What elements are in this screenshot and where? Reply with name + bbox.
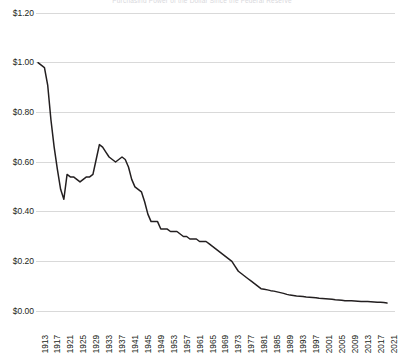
- data-series-group: [38, 63, 387, 303]
- y-axis-tick-label: $0.40: [0, 207, 34, 216]
- x-axis-tick-label: 1993: [300, 335, 308, 353]
- x-axis-tick-label: 2001: [326, 335, 334, 353]
- x-axis-tick-label: 1981: [261, 335, 269, 353]
- y-axis-tick-label: $0.20: [0, 257, 34, 266]
- x-axis-tick-label: 2005: [339, 335, 347, 353]
- x-axis-tick-label: 1961: [197, 335, 205, 353]
- y-axis-tick-label: $1.20: [0, 9, 34, 18]
- y-axis-tick-label: $0.00: [0, 307, 34, 316]
- x-axis-tick-label: 1921: [67, 335, 75, 353]
- x-axis-tick-label: 1989: [287, 335, 295, 353]
- x-axis-tick-label: 1969: [222, 335, 230, 353]
- x-axis-tick-label: 1953: [171, 335, 179, 353]
- gridlines: [36, 13, 395, 311]
- x-axis-tick-label: 1997: [313, 335, 321, 353]
- x-axis-tick-label: 1917: [54, 335, 62, 353]
- chart-canvas: [36, 0, 395, 337]
- x-axis-tick-label: 1985: [274, 335, 282, 353]
- x-axis-tick-label: 1965: [210, 335, 218, 353]
- y-axis-tick-label: $0.60: [0, 158, 34, 167]
- x-axis-tick-label: 2017: [378, 335, 386, 353]
- x-axis-tick-label: 1913: [42, 335, 50, 353]
- x-axis-tick-label: 1937: [119, 335, 127, 353]
- x-axis-tick-label: 1933: [106, 335, 114, 353]
- y-axis-tick-label: $0.80: [0, 108, 34, 117]
- x-axis: 1913191719211925192919331937194119451949…: [36, 313, 395, 337]
- x-axis-tick-label: 1977: [248, 335, 256, 353]
- x-axis-tick-label: 2013: [365, 335, 373, 353]
- x-axis-tick-label: 1973: [235, 335, 243, 353]
- y-axis-tick-label: $1.00: [0, 58, 34, 67]
- x-axis-tick-label: 1957: [184, 335, 192, 353]
- x-axis-tick-label: 1941: [132, 335, 140, 353]
- x-axis-tick-label: 1945: [145, 335, 153, 353]
- x-axis-tick-label: 2009: [352, 335, 360, 353]
- y-axis: $0.00$0.20$0.40$0.60$0.80$1.00$1.20: [0, 0, 34, 337]
- x-axis-tick-label: 2021: [391, 335, 399, 353]
- data-series-line: [38, 63, 387, 303]
- x-axis-tick-label: 1925: [80, 335, 88, 353]
- x-axis-tick-label: 1949: [158, 335, 166, 353]
- plot-area: [36, 0, 395, 337]
- x-axis-tick-label: 1929: [93, 335, 101, 353]
